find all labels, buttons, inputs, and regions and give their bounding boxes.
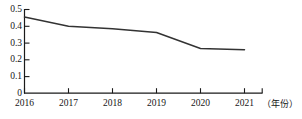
y-axis-ticks bbox=[25, 10, 30, 77]
x-axis-label-2016: 2016 bbox=[5, 99, 45, 109]
y-axis-label-0.3: 0.3 bbox=[0, 39, 22, 49]
y-axis-label-0.1: 0.1 bbox=[0, 72, 22, 82]
y-axis-label-0.5: 0.5 bbox=[0, 5, 22, 15]
x-axis-label-2018: 2018 bbox=[93, 99, 133, 109]
y-axis-label-0.4: 0.4 bbox=[0, 22, 22, 32]
x-axis-ticks bbox=[25, 88, 263, 93]
x-axis-label-2020: 2020 bbox=[181, 99, 221, 109]
line-chart: 0.5 0.4 0.3 0.2 0.1 0 2016 2017 2018 201… bbox=[0, 0, 302, 119]
x-axis-label-2019: 2019 bbox=[137, 99, 177, 109]
y-axis-label-0.2: 0.2 bbox=[0, 55, 22, 65]
x-axis-label-2021: 2021 bbox=[225, 99, 265, 109]
x-axis-title: （年份） bbox=[262, 100, 298, 109]
y-axis-label-0: 0 bbox=[0, 89, 22, 99]
data-series-line bbox=[25, 17, 245, 50]
x-axis-label-2017: 2017 bbox=[49, 99, 89, 109]
chart-axes bbox=[24, 9, 263, 94]
